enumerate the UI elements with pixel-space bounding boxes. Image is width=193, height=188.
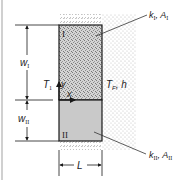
L-label: L [77, 160, 83, 171]
w-II-label: wII [18, 113, 29, 125]
insulation-top [59, 14, 102, 25]
w-I-label: wI [20, 57, 29, 69]
material-I-label: kI, AI [149, 10, 168, 21]
insulation-bottom [59, 141, 102, 150]
composite-fin-diagram: I II kI, AI kII, AII TF, h T1 y x wI wII… [0, 0, 193, 188]
region-II-label: II [62, 130, 68, 140]
base-temp-label: T1 [43, 79, 52, 91]
x-axis-label: x [66, 89, 72, 99]
material-II-label: kII, AII [149, 150, 172, 161]
y-axis-label: y [60, 79, 66, 89]
fluid-label: TF, h [106, 79, 127, 91]
region-I-label: I [62, 29, 65, 39]
